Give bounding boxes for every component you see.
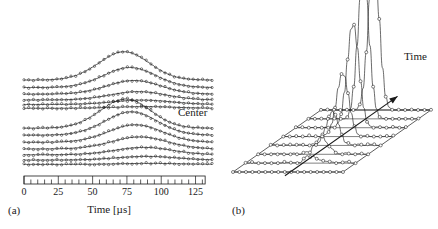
x-tick-label: 50 <box>88 186 98 197</box>
waterfall-trace <box>282 73 395 139</box>
x-tick-label: 75 <box>122 186 132 197</box>
x-tick-label: 25 <box>53 186 63 197</box>
panel-a: Center Time [µs] (a) 0255075100125 <box>0 0 219 229</box>
x-tick-label: 125 <box>188 186 203 197</box>
time-annotation: Time <box>404 50 427 62</box>
waveform-trace <box>23 146 213 157</box>
panel-b: Time (b) <box>219 0 438 229</box>
waveform-trace <box>23 50 213 81</box>
waterfall-trace <box>307 0 420 120</box>
x-axis-title: Time [µs] <box>0 203 218 215</box>
x-tick-label: 0 <box>22 186 27 197</box>
center-annotation: Center <box>178 106 207 118</box>
waterfall-trace <box>294 23 407 129</box>
x-tick-label: 100 <box>154 186 169 197</box>
panel-label-b: (b) <box>232 205 245 216</box>
figure-root: Center Time [µs] (a) 0255075100125 Time … <box>0 0 438 229</box>
panel-b-plot <box>219 0 438 229</box>
x-axis <box>24 176 205 184</box>
panel-label-a: (a) <box>8 205 20 216</box>
waveform-trace <box>23 161 213 166</box>
base-grid <box>233 110 431 172</box>
